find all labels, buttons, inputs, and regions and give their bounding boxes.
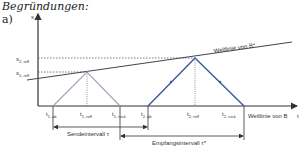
signal-1-path (53, 72, 120, 106)
t1-rueck-label: t1, rück (112, 111, 126, 119)
spacetime-diagram: x t Weltlinie von B x2, reff x1, reff We… (0, 0, 303, 152)
t1-ab-label: t1, ab (46, 111, 57, 119)
receive-interval-label: Empfangsintervall τ* (152, 140, 207, 146)
send-interval-label: Sendeintervall τ (67, 131, 110, 137)
signal-2-arrow-up (170, 81, 172, 83)
t-axis-label: t (297, 113, 299, 119)
worldline-b-star-label: Weltlinie von B* (213, 42, 256, 54)
t1-reff-label: t1, reff (80, 111, 93, 119)
signal-2-arrow-down (219, 81, 221, 83)
t2-ab-label: t2, ab (141, 111, 152, 119)
x1-reff-label: x1, reff (16, 70, 30, 78)
t2-reff-label: t2, reff (187, 111, 200, 119)
x2-reff-label: x2, reff (16, 56, 30, 64)
t2-rueck-label: t2, rück (222, 111, 236, 119)
signal-2-path (148, 58, 244, 106)
x-axis-label: x (31, 14, 34, 20)
t-axis-caption: Weltlinie von B (248, 113, 288, 119)
